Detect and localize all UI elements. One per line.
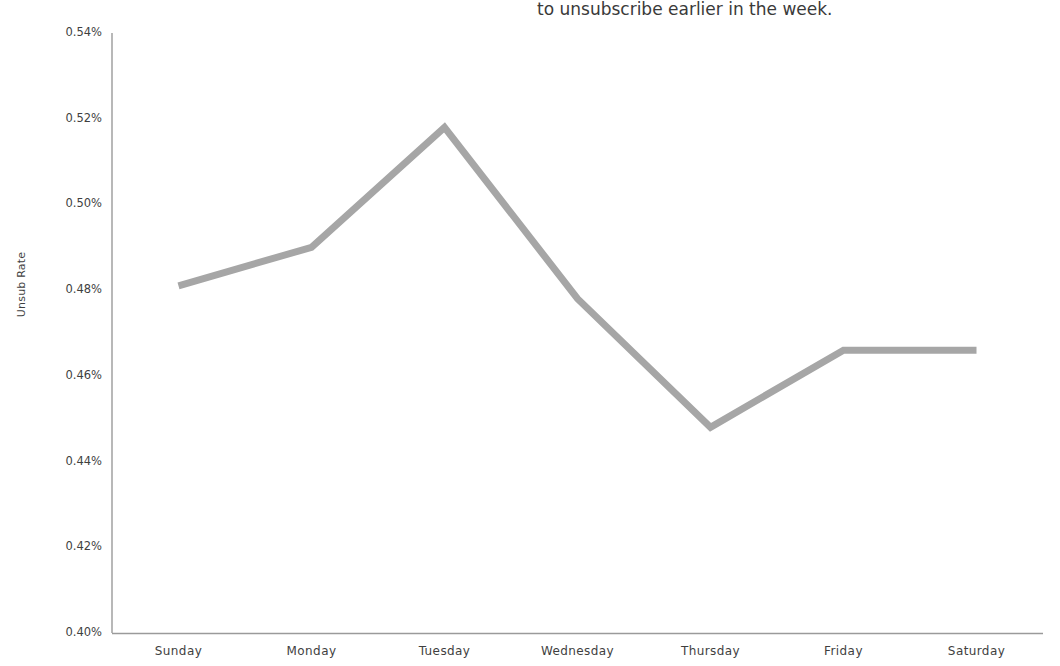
x-axis-tick-labels: SundayMondayTuesdayWednesdayThursdayFrid… xyxy=(0,0,1060,666)
x-tick-label: Thursday xyxy=(681,644,740,658)
x-tick-label: Sunday xyxy=(155,644,202,658)
x-tick-label: Wednesday xyxy=(541,644,614,658)
unsub-rate-line-chart: Unsub Rate 0.54%0.52%0.50%0.48%0.46%0.44… xyxy=(0,0,1060,666)
x-tick-label: Friday xyxy=(824,644,863,658)
x-tick-label: Saturday xyxy=(948,644,1005,658)
x-tick-label: Tuesday xyxy=(419,644,471,658)
x-tick-label: Monday xyxy=(287,644,337,658)
